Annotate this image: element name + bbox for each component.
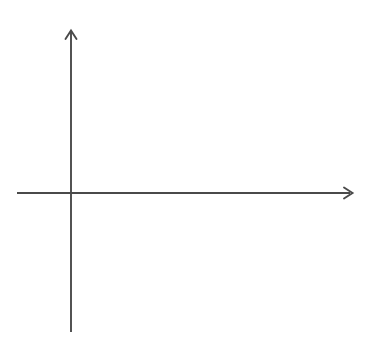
coordinate-grid-figure bbox=[0, 0, 370, 351]
coordinate-plane bbox=[0, 0, 370, 351]
figure-background bbox=[0, 0, 370, 351]
